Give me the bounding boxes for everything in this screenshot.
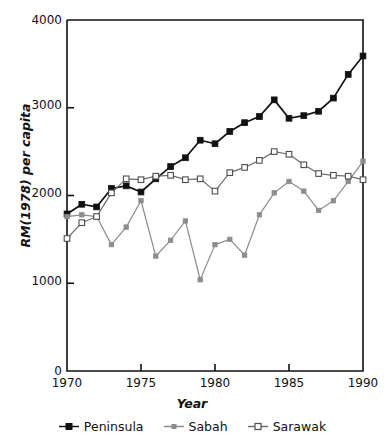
data-point <box>331 173 337 179</box>
data-point <box>360 53 366 59</box>
data-point <box>79 220 85 226</box>
data-point <box>286 151 292 157</box>
data-point <box>316 171 322 177</box>
data-point <box>212 141 218 147</box>
data-point <box>94 204 100 210</box>
data-point <box>257 158 263 164</box>
data-point <box>316 208 320 212</box>
data-point <box>109 242 113 246</box>
data-point <box>153 173 159 179</box>
series-sabah <box>65 159 365 282</box>
data-point <box>301 113 307 119</box>
data-point <box>286 115 292 121</box>
data-point <box>272 191 276 195</box>
data-point <box>197 176 203 182</box>
data-point <box>168 173 174 179</box>
series-sarawak <box>64 149 366 241</box>
data-point <box>183 177 189 183</box>
legend-item-sarawak: Sarawak <box>247 420 327 433</box>
data-point <box>360 177 366 183</box>
data-point <box>213 242 217 246</box>
data-point <box>361 159 365 163</box>
data-point <box>212 188 218 194</box>
legend-item-peninsula: Peninsula <box>58 420 144 433</box>
data-point <box>65 214 69 218</box>
data-point <box>139 199 143 203</box>
data-point <box>302 189 306 193</box>
data-point <box>123 176 129 182</box>
legend-marker-filled-square-icon <box>58 421 80 432</box>
data-point <box>183 155 189 161</box>
data-point <box>123 183 129 189</box>
data-point <box>183 219 187 223</box>
data-point <box>345 72 351 78</box>
data-point <box>79 201 85 207</box>
data-point <box>257 213 261 217</box>
legend-marker-small-square-icon <box>163 421 185 432</box>
data-point <box>227 129 233 135</box>
legend-marker-open-square-icon <box>247 421 269 432</box>
data-point <box>242 165 248 171</box>
data-point <box>242 253 246 257</box>
data-point <box>301 162 307 168</box>
data-point <box>154 254 158 258</box>
data-point <box>168 238 172 242</box>
chart-figure: RM(1978) per capita Year 4000 3000 2000 … <box>0 0 384 446</box>
data-point <box>271 97 277 103</box>
data-point <box>168 164 174 170</box>
data-point <box>138 189 144 195</box>
data-point <box>331 95 337 101</box>
data-point <box>197 137 203 143</box>
legend-label-sabah: Sabah <box>189 420 228 433</box>
data-point <box>138 177 144 183</box>
data-point <box>345 173 351 179</box>
data-point <box>64 236 70 242</box>
legend-label-sarawak: Sarawak <box>273 420 327 433</box>
data-point <box>271 149 277 155</box>
data-point <box>316 108 322 114</box>
data-point <box>124 225 128 229</box>
data-point <box>242 120 248 126</box>
axis-ticks <box>67 108 289 371</box>
data-point <box>198 278 202 282</box>
data-point <box>94 214 100 220</box>
data-point <box>257 114 263 120</box>
legend-item-sabah: Sabah <box>163 420 228 433</box>
data-point <box>346 179 350 183</box>
data-point <box>287 179 291 183</box>
chart-legend: Peninsula Sabah Sarawak <box>0 420 384 433</box>
data-point <box>228 237 232 241</box>
data-point <box>331 199 335 203</box>
data-point <box>109 190 115 196</box>
data-series-layer <box>64 53 366 282</box>
plot-area <box>0 0 384 446</box>
legend-label-peninsula: Peninsula <box>84 420 144 433</box>
data-point <box>80 213 84 217</box>
data-point <box>227 170 233 176</box>
